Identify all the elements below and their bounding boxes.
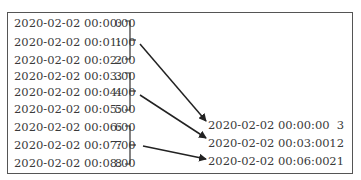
grouping-arrows	[0, 0, 361, 180]
arrow-group-3	[143, 146, 206, 159]
bracket-group-2	[125, 73, 130, 110]
bracket-group-1	[125, 21, 130, 59]
arrow-group-2	[140, 95, 206, 138]
bracket-group-3	[125, 126, 130, 164]
arrow-group-1	[140, 44, 206, 121]
